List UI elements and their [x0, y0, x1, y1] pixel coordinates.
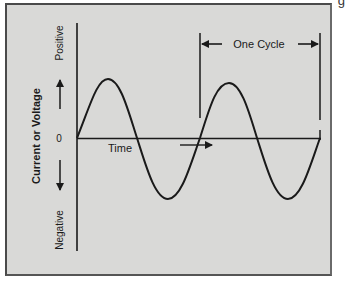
negative-label: Negative [54, 210, 65, 250]
sine-wave-diagram: One Cycle Time 0 Positive Negative Curre… [0, 0, 349, 284]
zero-label: 0 [56, 133, 62, 144]
y-axis-label: Current or Voltage [30, 88, 42, 184]
positive-label: Positive [54, 25, 65, 60]
cycle-label: One Cycle [233, 38, 284, 50]
x-axis-label: Time [108, 142, 132, 154]
